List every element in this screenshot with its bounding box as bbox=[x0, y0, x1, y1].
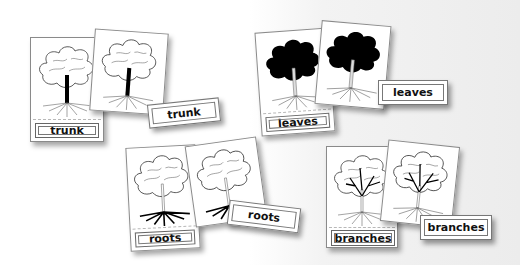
trunk-control-label: trunk bbox=[35, 123, 99, 138]
branches-label-card[interactable]: branches bbox=[420, 215, 492, 240]
tree-trunk-illustration bbox=[94, 32, 163, 114]
roots-label-card[interactable]: roots bbox=[227, 200, 302, 234]
leaves-control-label: leaves bbox=[265, 113, 330, 132]
leaves-label-card[interactable]: leaves bbox=[378, 80, 448, 105]
branches-control-label: branches bbox=[331, 230, 395, 246]
trunk-picture-card[interactable] bbox=[89, 29, 169, 116]
roots-control-label: roots bbox=[135, 229, 196, 247]
